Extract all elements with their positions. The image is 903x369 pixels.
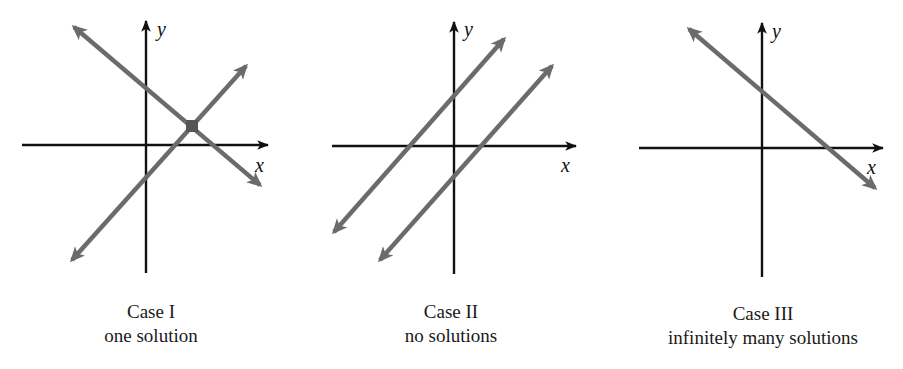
- parallel-line-upper: [334, 39, 504, 232]
- parallel-line-lower: [380, 66, 552, 260]
- panel-case-1: y x: [22, 18, 268, 273]
- line-descending: [74, 27, 260, 185]
- case-description: no solutions: [376, 324, 526, 348]
- caption-case-3: Case III infinitely many solutions: [638, 302, 888, 350]
- y-axis-label: y: [462, 18, 473, 41]
- caption-case-1: Case I one solution: [76, 300, 226, 348]
- panel-case-2: y x: [332, 18, 576, 274]
- panel-case-3: y x: [639, 20, 883, 277]
- y-axis-label: y: [770, 20, 781, 43]
- intersection-point: [186, 120, 198, 132]
- x-axis-label: x: [866, 156, 876, 178]
- case-description: infinitely many solutions: [638, 326, 888, 350]
- caption-case-2: Case II no solutions: [376, 300, 526, 348]
- case-title: Case I: [76, 300, 226, 324]
- coincident-line: [689, 29, 875, 188]
- x-axis-label: x: [560, 154, 570, 176]
- case-title: Case III: [638, 302, 888, 326]
- x-axis-label: x: [254, 154, 264, 176]
- case-description: one solution: [76, 324, 226, 348]
- y-axis-label: y: [155, 18, 166, 41]
- case-title: Case II: [376, 300, 526, 324]
- line-ascending: [72, 66, 246, 260]
